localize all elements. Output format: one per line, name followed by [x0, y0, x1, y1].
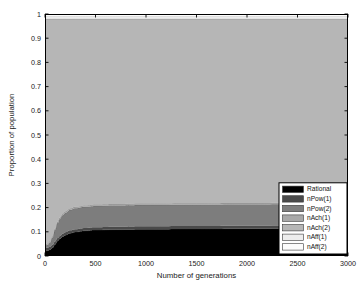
y-tick-label: 0.1 — [31, 227, 41, 236]
y-tick-label: 0.8 — [31, 58, 41, 67]
legend-label-naff1: nAff(1) — [307, 233, 327, 241]
x-tick-label: 2000 — [239, 259, 255, 268]
x-tick-label: 3000 — [340, 259, 356, 268]
legend-swatch-naff2 — [283, 244, 304, 250]
stacked-area-chart: 050010001500200025003000 00.10.20.30.40.… — [0, 0, 362, 298]
y-tick-label: 1 — [37, 10, 41, 19]
legend-label-nach2: nAch(2) — [307, 224, 330, 232]
y-tick-label: 0.6 — [31, 106, 41, 115]
x-tick-label: 2500 — [290, 259, 306, 268]
y-tick-label: 0.9 — [31, 34, 41, 43]
x-axis-title: Number of generations — [157, 271, 236, 280]
chart-figure: 050010001500200025003000 00.10.20.30.40.… — [0, 0, 362, 298]
x-tick-label: 1500 — [189, 259, 205, 268]
y-tick-label: 0.2 — [31, 203, 41, 212]
x-tick-label: 500 — [90, 259, 102, 268]
legend-label-rational: Rational — [307, 185, 332, 192]
x-tick-label: 0 — [43, 259, 47, 268]
legend-swatch-rational — [283, 186, 304, 192]
y-tick-label: 0.4 — [31, 155, 41, 164]
chart-legend: RationalnPow(1)nPow(2)nAch(1)nAch(2)nAff… — [279, 183, 347, 254]
x-tick-label: 1000 — [138, 259, 154, 268]
legend-swatch-nach1 — [283, 215, 304, 221]
legend-label-npow1: nPow(1) — [307, 195, 332, 203]
legend-label-nach1: nAch(1) — [307, 214, 330, 222]
y-tick-label: 0.7 — [31, 82, 41, 91]
y-tick-label: 0.3 — [31, 179, 41, 188]
legend-swatch-naff1 — [283, 234, 304, 240]
y-axis-title: Proportion of population — [7, 94, 16, 177]
legend-swatch-npow1 — [283, 196, 304, 202]
legend-label-naff2: nAff(2) — [307, 243, 327, 251]
legend-label-npow2: nPow(2) — [307, 205, 332, 213]
legend-swatch-npow2 — [283, 205, 304, 211]
legend-swatch-nach2 — [283, 225, 304, 231]
y-tick-label: 0.5 — [31, 131, 41, 140]
y-tick-label: 0 — [37, 252, 41, 261]
